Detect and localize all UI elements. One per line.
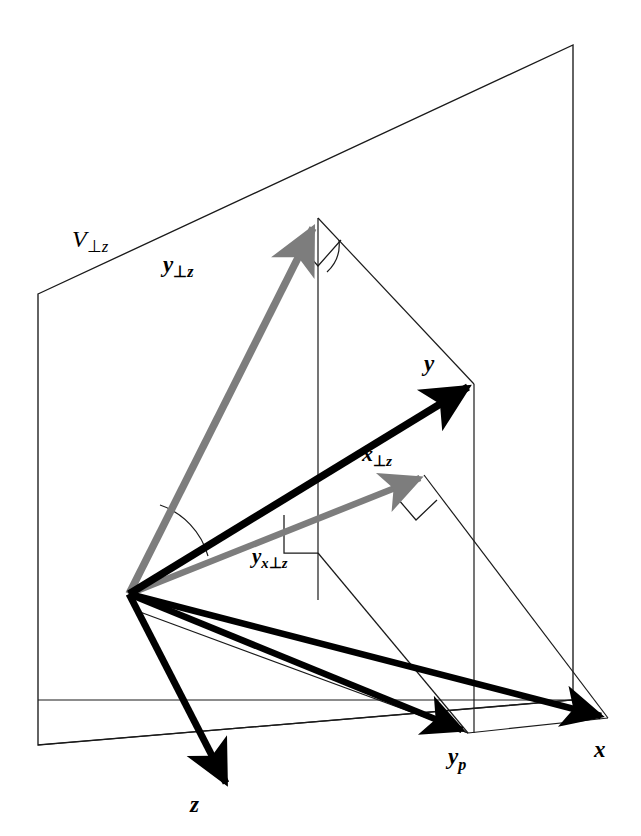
label-yxpz-var2: z bbox=[281, 555, 288, 571]
label-x: x bbox=[593, 737, 606, 762]
label-y-perp-z-perp: ⊥ bbox=[173, 263, 187, 280]
label-plane-var: z bbox=[101, 237, 109, 256]
label-y: y bbox=[421, 351, 435, 376]
label-yxpz-perp: ⊥ bbox=[269, 555, 282, 571]
label-x-perp-z-base: x bbox=[361, 441, 373, 466]
link-yp-to-x bbox=[468, 718, 608, 733]
label-yp-base: y bbox=[445, 744, 459, 769]
label-y-perp-z-base: y bbox=[160, 252, 174, 277]
label-yxpz-var1: x bbox=[260, 555, 268, 571]
label-y-perp-z-var: z bbox=[186, 263, 194, 280]
vector-projection-diagram: V⊥z y⊥z y x⊥z yx⊥z yp x z bbox=[0, 0, 641, 836]
label-x-perp-z-perp: ⊥ bbox=[373, 452, 386, 469]
figure-container: V⊥z y⊥z y x⊥z yx⊥z yp x z bbox=[0, 0, 641, 836]
label-z: z bbox=[189, 792, 199, 817]
label-y-p: yp bbox=[445, 744, 466, 774]
label-x-perp-z-var: z bbox=[385, 452, 392, 469]
label-yp-var: p bbox=[456, 756, 466, 774]
label-plane-v-perp-z: V⊥z bbox=[72, 226, 109, 256]
label-plane-perp: ⊥ bbox=[87, 237, 102, 256]
